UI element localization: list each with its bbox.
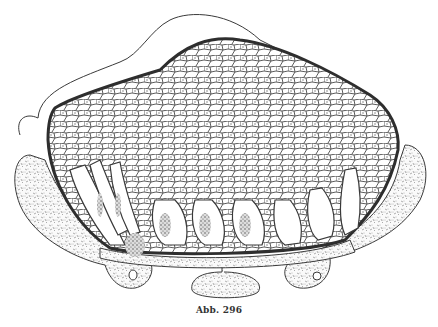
cross-section-illustration xyxy=(0,0,438,300)
figure-caption: Abb. 296 xyxy=(0,305,438,315)
right-nodule xyxy=(313,272,321,280)
left-nodule xyxy=(129,270,137,280)
